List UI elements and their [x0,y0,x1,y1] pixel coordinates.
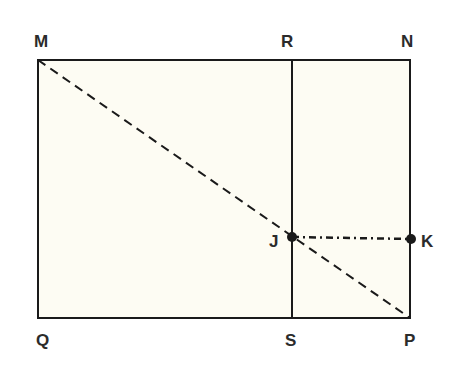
label-r: R [281,32,293,51]
label-n: N [401,32,413,51]
label-s: S [285,331,296,350]
label-p: P [404,331,415,350]
label-m: M [34,32,48,51]
geometry-diagram: M R N J K Q S P [0,0,462,380]
point-j-dot [287,232,297,242]
point-k-dot [406,234,416,244]
label-q: Q [36,331,49,350]
label-j: J [269,232,278,251]
label-k: K [421,232,434,251]
